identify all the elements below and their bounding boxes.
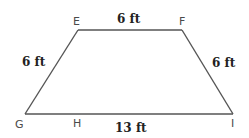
vertex-label-g: G (15, 118, 24, 131)
measure-right-fi: 6 ft (212, 56, 236, 70)
vertex-label-e: E (73, 15, 80, 28)
vertex-label-h: H (73, 117, 81, 130)
measure-top-ef: 6 ft (117, 12, 141, 26)
trapezoid-diagram: E F G H I 6 ft 6 ft 6 ft 13 ft (0, 0, 249, 138)
measure-bottom-gi: 13 ft (115, 121, 147, 135)
measure-left-eg: 6 ft (22, 55, 46, 69)
vertex-label-f: F (179, 15, 185, 28)
vertex-label-i: I (231, 117, 234, 130)
